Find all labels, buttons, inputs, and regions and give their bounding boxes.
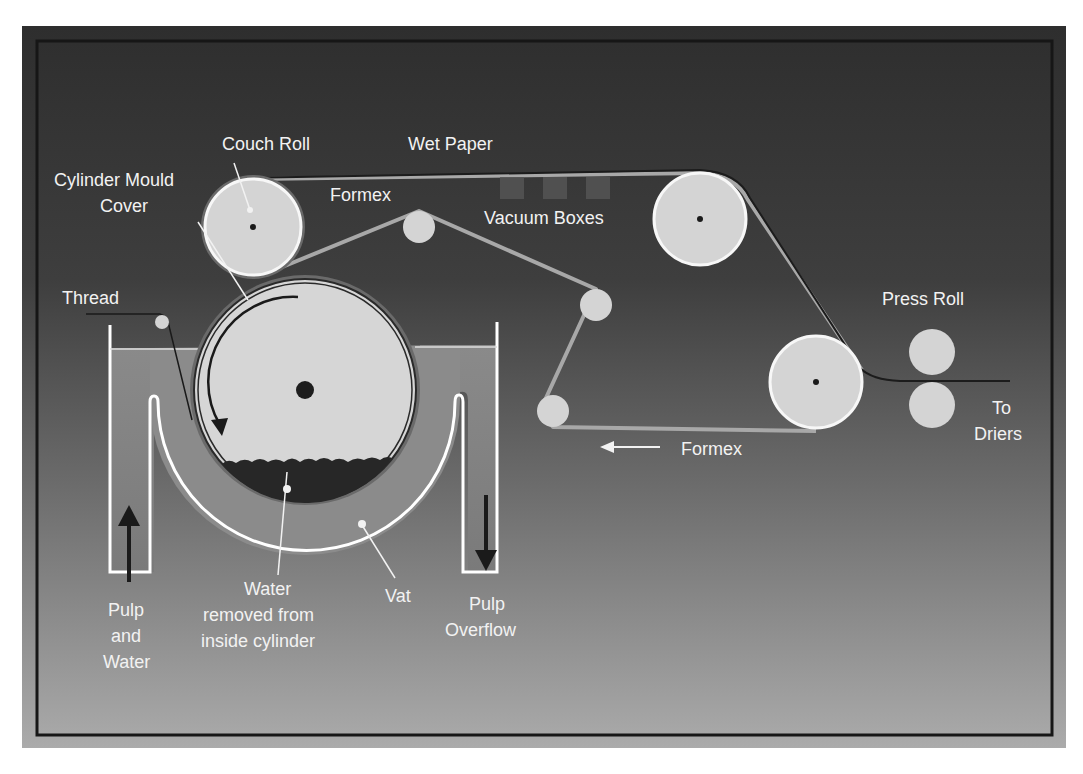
label-water-removed-1: Water [244, 579, 291, 599]
label-water-removed-2: removed from [203, 605, 314, 625]
couch-roll [201, 175, 305, 279]
label-vacuum-boxes: Vacuum Boxes [484, 208, 604, 228]
lower-felt-roll [770, 336, 862, 428]
label-thread: Thread [62, 288, 119, 308]
upper-felt-roll [654, 173, 746, 265]
press-roll-top [909, 329, 955, 375]
label-formex-bottom: Formex [681, 439, 742, 459]
label-pulp-overflow-1: Pulp [469, 594, 505, 614]
label-vat: Vat [385, 586, 411, 606]
press-roll-bottom [909, 382, 955, 428]
paper-machine-diagram: Couch Roll Wet Paper Cylinder Mould Cove… [0, 0, 1083, 774]
cylinder-axle [296, 381, 314, 399]
vacuum-box-3 [586, 177, 610, 199]
vacuum-boxes [500, 177, 610, 199]
formex-roll-2 [580, 289, 612, 321]
couch-roll-axle [250, 224, 256, 230]
label-formex-top: Formex [330, 185, 391, 205]
water-removed-leader-dot [283, 485, 291, 493]
label-to-driers-1: To [992, 398, 1011, 418]
thread-guide [155, 315, 169, 329]
formex-roll-1 [403, 211, 435, 243]
label-to-driers-2: Driers [974, 424, 1022, 444]
label-pulp-and-water-1: Pulp [108, 600, 144, 620]
vat-leader-dot [358, 520, 366, 528]
label-press-roll: Press Roll [882, 289, 964, 309]
couch-roll-leader-dot [247, 207, 253, 213]
label-water-removed-3: inside cylinder [201, 631, 315, 651]
vacuum-box-1 [500, 177, 524, 199]
label-pulp-and-water-2: and [111, 626, 141, 646]
vacuum-box-2 [543, 177, 567, 199]
cylinder-mould [190, 275, 420, 505]
label-couch-roll: Couch Roll [222, 134, 310, 154]
label-pulp-and-water-3: Water [103, 652, 150, 672]
label-cylinder-mould-cover-1: Cylinder Mould [54, 170, 174, 190]
label-wet-paper: Wet Paper [408, 134, 493, 154]
formex-roll-3 [537, 395, 569, 427]
label-cylinder-mould-cover-2: Cover [100, 196, 148, 216]
label-pulp-overflow-2: Overflow [445, 620, 517, 640]
